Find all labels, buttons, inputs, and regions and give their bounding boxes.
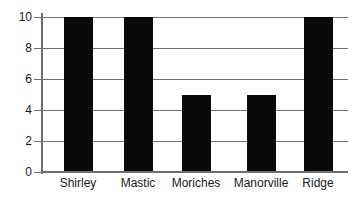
bar-chart: 10 8 6 4 2 0 Shirley Mastic Moriches Man…: [0, 0, 363, 200]
y-tick-label: 8: [2, 42, 32, 54]
y-tick-label: 0: [2, 166, 32, 178]
y-tick-label: 2: [2, 135, 32, 147]
x-label-moriches: Moriches: [162, 176, 230, 190]
plot-area: [42, 17, 348, 172]
y-tick-label: 6: [2, 73, 32, 85]
x-axis-line: [42, 171, 348, 173]
x-label-manorville: Manorville: [224, 176, 298, 190]
y-tick-label: 10: [2, 11, 32, 23]
x-label-ridge: Ridge: [292, 176, 344, 190]
x-label-mastic: Mastic: [108, 176, 168, 190]
bar-mastic: [124, 17, 153, 172]
y-tick-label: 4: [2, 104, 32, 116]
bar-shirley: [64, 17, 93, 172]
y-axis-tick-labels: 10 8 6 4 2 0: [0, 0, 32, 200]
x-label-shirley: Shirley: [48, 176, 108, 190]
bar-ridge: [304, 17, 333, 172]
bar-moriches: [182, 95, 211, 173]
bar-manorville: [247, 95, 276, 173]
